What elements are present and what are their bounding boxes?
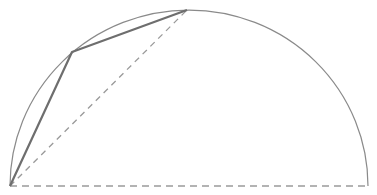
semicircle-arc [10,10,368,186]
semicircle-chord-diagram [0,0,377,195]
dashed-chord-line [10,10,187,186]
